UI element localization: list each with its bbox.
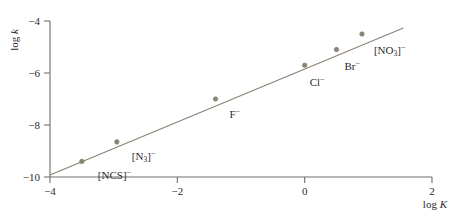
fit-line-segment (50, 28, 403, 175)
y-tick-label: −10 (18, 172, 40, 183)
data-point-nitrate (360, 32, 365, 37)
y-axis-title: log k (9, 29, 20, 51)
point-label-fluoride: F− (230, 109, 241, 120)
x-tick-label: −4 (44, 186, 56, 197)
point-label-azide: [N3]− (132, 151, 156, 162)
x-tick-label: 2 (429, 186, 435, 197)
y-tick-label: −8 (18, 120, 40, 131)
fit-line (50, 28, 403, 175)
y-tick-label: −4 (18, 16, 40, 27)
x-tick-label: −2 (171, 186, 183, 197)
plot-area (0, 0, 455, 216)
x-axis-title: log K (423, 199, 447, 210)
point-label-chloride: Cl− (310, 77, 325, 88)
data-point-thiocyanate (80, 159, 85, 164)
y-tick-label: −6 (18, 68, 40, 79)
x-tick-label: 0 (302, 186, 308, 197)
data-markers (80, 32, 365, 164)
data-point-chloride (302, 63, 307, 68)
data-point-fluoride (213, 97, 218, 102)
data-point-azide (115, 140, 120, 145)
point-label-bromide: Br− (345, 61, 361, 72)
data-point-bromide (334, 47, 339, 52)
point-label-thiocyanate: [NCS]− (98, 170, 131, 181)
point-label-nitrate: [NO3]− (374, 45, 406, 56)
y-axis-ticks (44, 21, 50, 177)
chart-container: log k log K −4−6−8−10−4−202 [NCS]−[N3]−F… (0, 0, 455, 216)
